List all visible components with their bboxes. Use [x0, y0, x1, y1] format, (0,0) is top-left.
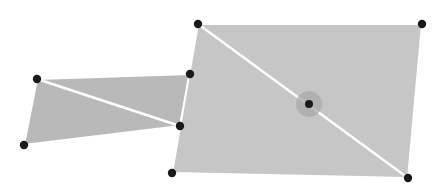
corner-handle-large-quad-bottom-left[interactable]	[168, 169, 176, 177]
corner-handle-small-quad-bottom-right[interactable]	[176, 122, 184, 130]
corner-handle-large-quad-top-right[interactable]	[418, 20, 426, 28]
warp-scene[interactable]	[0, 0, 436, 194]
small-quad[interactable]	[24, 74, 190, 145]
corner-handle-large-quad-top-left[interactable]	[194, 20, 202, 28]
large-quad[interactable]	[172, 24, 422, 178]
corner-handle-large-quad-bottom-right[interactable]	[404, 174, 412, 182]
small-quad-face[interactable]	[24, 74, 190, 145]
quad-shapes-layer	[24, 24, 422, 178]
center-move-handle[interactable]	[305, 100, 313, 108]
corner-handle-small-quad-top-left[interactable]	[33, 75, 41, 83]
corner-handle-small-quad-top-right[interactable]	[186, 70, 194, 78]
corner-handle-small-quad-bottom-left[interactable]	[20, 141, 28, 149]
perspective-warp-canvas[interactable]	[0, 0, 436, 194]
